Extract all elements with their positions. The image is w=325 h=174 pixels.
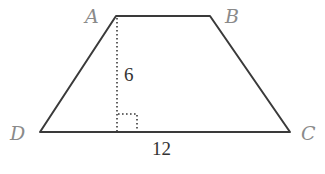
vertex-label-b: B (224, 5, 239, 27)
vertex-label-c: C (301, 122, 316, 144)
base-label: 12 (152, 138, 171, 159)
vertex-label-a: A (83, 5, 99, 27)
right-angle-marker (118, 114, 137, 131)
height-label: 6 (124, 64, 134, 85)
trapezoid-diagram: A B C D 6 12 (0, 0, 325, 174)
vertex-label-d: D (9, 122, 25, 144)
trapezoid-shape (40, 16, 290, 132)
